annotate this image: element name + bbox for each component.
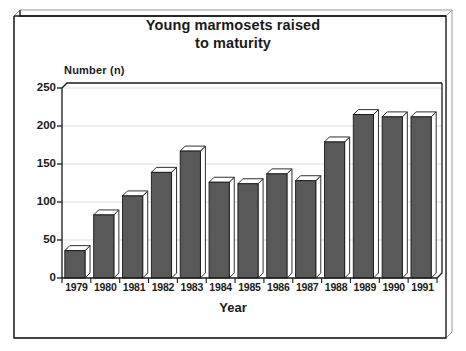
plot-area	[62, 88, 437, 278]
x-tick-label: 1982	[149, 281, 178, 293]
x-axis-tick-labels: 1979198019811982198319841985198619871988…	[62, 281, 440, 297]
bar	[267, 169, 292, 278]
y-tick-label: 0	[24, 271, 56, 283]
bar	[411, 112, 436, 278]
x-tick-label: 1988	[322, 281, 351, 293]
y-tick-label: 200	[24, 119, 56, 131]
x-tick-label: 1979	[62, 281, 91, 293]
x-tick-label: 1990	[379, 281, 408, 293]
x-tick-label: 1987	[293, 281, 322, 293]
plot-canvas	[62, 88, 437, 278]
x-tick-label: 1985	[235, 281, 264, 293]
bar	[65, 246, 90, 278]
bar	[209, 177, 234, 278]
bar	[123, 191, 148, 278]
x-tick-label: 1984	[206, 281, 235, 293]
chart-figure: Young marmosets raised to maturity Numbe…	[0, 0, 466, 351]
chart-title: Young marmosets raised to maturity	[0, 16, 466, 52]
x-tick-label: 1983	[177, 281, 206, 293]
chart-title-line-2: to maturity	[0, 34, 466, 52]
y-axis-tick-labels: 050100150200250	[20, 88, 56, 278]
y-tick-label: 50	[24, 233, 56, 245]
bar	[94, 210, 119, 278]
bar	[238, 179, 263, 278]
bar	[382, 112, 407, 278]
bar-series	[65, 110, 436, 278]
x-tick-label: 1980	[91, 281, 120, 293]
x-axis-label: Year	[0, 300, 466, 315]
x-tick-label: 1991	[408, 281, 437, 293]
y-axis-label: Number (n)	[64, 64, 125, 76]
x-tick-label: 1989	[350, 281, 379, 293]
chart-title-line-1: Young marmosets raised	[0, 16, 466, 34]
x-tick-label: 1986	[264, 281, 293, 293]
y-tick-label: 150	[24, 157, 56, 169]
bar	[324, 137, 349, 278]
bar	[151, 167, 176, 278]
x-tick-label: 1981	[120, 281, 149, 293]
bar	[180, 146, 205, 278]
bar	[296, 176, 321, 278]
y-tick-label: 250	[24, 81, 56, 93]
y-tick-label: 100	[24, 195, 56, 207]
bar	[353, 110, 378, 278]
